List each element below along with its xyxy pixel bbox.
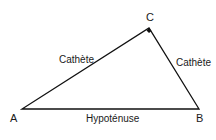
side-label-cb: Cathète: [176, 57, 211, 68]
triangle-outline: [22, 28, 199, 109]
side-label-ac: Cathète: [59, 54, 94, 65]
triangle-diagram: C A B Cathète Cathète Hypoténuse: [0, 0, 216, 140]
vertex-label-a: A: [10, 112, 18, 124]
vertex-label-b: B: [196, 112, 203, 124]
vertex-label-c: C: [146, 11, 154, 23]
side-label-ab: Hypoténuse: [86, 113, 140, 124]
